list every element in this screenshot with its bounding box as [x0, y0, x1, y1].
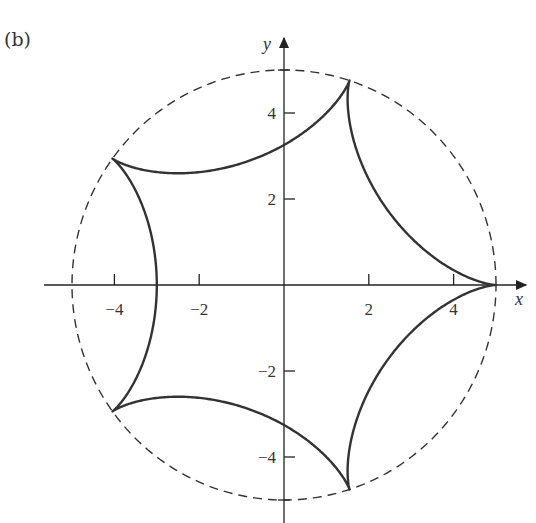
x-tick-label: −2: [190, 300, 208, 319]
x-tick-label: 2: [365, 300, 374, 319]
y-tick-label: −4: [258, 448, 277, 467]
y-tick-label: 4: [268, 104, 277, 123]
x-axis-label: x: [514, 289, 523, 309]
y-axis-label: y: [261, 34, 271, 54]
plot-area: −4−22442−2−4 x y: [0, 0, 536, 523]
y-tick-label: −2: [258, 362, 276, 381]
x-tick-label: −4: [105, 300, 124, 319]
y-tick-label: 2: [268, 190, 277, 209]
